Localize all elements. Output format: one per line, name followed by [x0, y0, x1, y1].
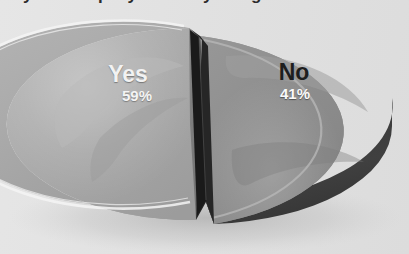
pie-slice-yes[interactable]: [0, 21, 202, 220]
pie-slice-no[interactable]: [200, 36, 393, 224]
pie-chart-canvas: [0, 0, 409, 254]
pie-chart-figure: Is your company currently using automate…: [0, 0, 409, 254]
